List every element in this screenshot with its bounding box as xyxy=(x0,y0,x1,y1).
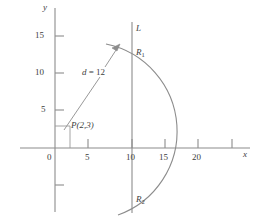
intersection-r1-subscript: 1 xyxy=(142,51,145,58)
point-p-label: P(2,3) xyxy=(71,121,94,130)
distance-label: d = 12 xyxy=(82,68,105,77)
y-tick-label-5: 5 xyxy=(41,105,46,114)
line-l-label: L xyxy=(136,24,141,33)
y-axis-label: y xyxy=(43,3,47,12)
intersection-r2-label: R2 xyxy=(136,195,145,204)
intersection-r2-subscript: 2 xyxy=(142,198,145,205)
intersection-r1-label: R1 xyxy=(136,48,145,57)
intersection-r2-letter: R xyxy=(136,194,142,204)
intersection-r1-letter: R xyxy=(136,47,142,57)
circle-arc xyxy=(106,44,177,215)
x-tick-label-20: 20 xyxy=(192,153,201,162)
x-tick-label-5: 5 xyxy=(85,153,90,162)
distance-value: 12 xyxy=(96,67,105,77)
y-tick-label-10: 10 xyxy=(35,68,44,77)
coordinate-geometry-figure: y x 15 10 5 0 5 10 15 20 P(2,3) d = 12 L… xyxy=(0,0,269,224)
x-axis-label: x xyxy=(243,150,247,159)
x-tick-label-0: 0 xyxy=(47,153,52,162)
distance-leader-arrowhead xyxy=(112,44,120,51)
point-p-text: P(2,3) xyxy=(71,120,94,130)
x-tick-label-10: 10 xyxy=(126,153,135,162)
y-tick-label-15: 15 xyxy=(35,31,44,40)
distance-equals: = xyxy=(87,67,97,77)
x-tick-label-15: 15 xyxy=(159,153,168,162)
